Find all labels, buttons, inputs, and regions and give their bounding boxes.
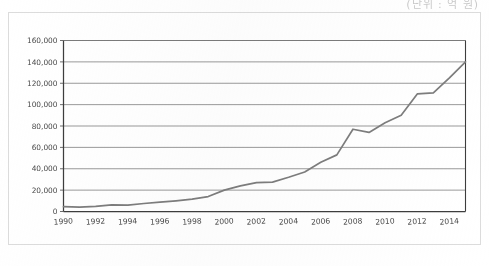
gridlines (64, 41, 466, 191)
y-axis-tick-label: 140,000 (27, 58, 58, 67)
data-series-line (64, 62, 466, 207)
x-axis-tick-label: 2006 (311, 216, 331, 226)
x-axis-tick-label: 1994 (118, 216, 138, 226)
y-axis-tick-label: 0 (53, 207, 58, 216)
y-axis-tick-label: 100,000 (27, 100, 58, 109)
y-axis-tick-label: 60,000 (32, 143, 58, 152)
y-axis-tick-label: 80,000 (32, 122, 58, 131)
line-chart: 020,00040,00060,00080,000100,000120,0001… (0, 0, 489, 266)
y-axis-tick-label: 20,000 (32, 186, 58, 195)
y-axis-tick-label: 160,000 (27, 36, 58, 45)
x-axis-tick-label: 2008 (343, 216, 363, 226)
x-axis-tick-label: 1992 (86, 216, 106, 226)
y-axis-tick-label: 120,000 (27, 79, 58, 88)
x-axis-tick-label: 2002 (246, 216, 266, 226)
x-axis-tick-label: 1996 (150, 216, 170, 226)
y-axis-ticks: 020,00040,00060,00080,000100,000120,0001… (27, 36, 64, 216)
x-axis-tick-label: 2010 (375, 216, 395, 226)
x-axis-tick-label: 2004 (278, 216, 298, 226)
x-axis-tick-label: 1998 (182, 216, 202, 226)
x-axis-ticks: 1990199219941996199820002002200420062008… (53, 216, 459, 226)
x-axis-tick-label: 2014 (439, 216, 459, 226)
chart-canvas: 020,00040,00060,00080,000100,000120,0001… (0, 0, 489, 266)
x-axis-tick-label: 1990 (53, 216, 73, 226)
x-axis-tick-label: 2012 (407, 216, 427, 226)
y-axis-tick-label: 40,000 (32, 164, 58, 173)
x-axis-tick-label: 2000 (214, 216, 234, 226)
